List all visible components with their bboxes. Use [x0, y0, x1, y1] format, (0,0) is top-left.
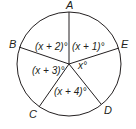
angle-label-ab: (x + 2)° [35, 41, 68, 52]
point-label-c: C [29, 108, 37, 120]
circle-diagram: A B C D E (x + 2)° (x + 1)° (x + 3)° x° … [0, 0, 136, 129]
angle-label-bc: (x + 3)° [32, 65, 65, 76]
point-label-d: D [104, 104, 112, 116]
point-label-b: B [9, 38, 16, 50]
point-label-a: A [65, 0, 73, 11]
angle-label-cd: (x + 4)° [54, 86, 87, 97]
angle-label-ae: (x + 1)° [72, 41, 105, 52]
angle-label-ed: x° [77, 60, 87, 71]
point-label-e: E [121, 38, 129, 50]
